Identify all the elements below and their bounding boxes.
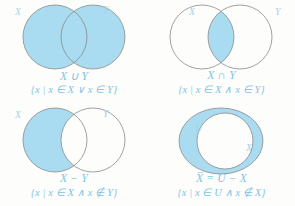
operation-label: X ∪ Y [0,69,148,83]
panel-complement: U X X̅ = U − X {x | x ∈ U ∧ x ∉ X} [148,103,295,206]
set-builder-notation: {x | x ∈ X ∧ x ∉ Y} [0,186,148,198]
operation-label: X − Y [0,172,148,184]
panel-difference: X Y X − Y {x | x ∈ X ∧ x ∉ Y} [0,103,148,206]
set-builder-notation: {x | x ∈ U ∧ x ∉ X} [148,186,295,198]
panel-intersection: X Y X ∩ Y {x | x ∈ X ∧ x ∈ Y} [148,0,295,103]
operation-label: X̅ = U − X [148,172,295,184]
set-builder-notation: {x | x ∈ X ∨ x ∈ Y} [0,83,148,95]
set-builder-notation: {x | x ∈ X ∧ x ∈ Y} [148,83,295,95]
venn-diagram-figure: X Y X ∪ Y {x | x ∈ X ∨ x ∈ Y} X Y X ∩ Y … [0,0,295,206]
panel-union: X Y X ∪ Y {x | x ∈ X ∨ x ∈ Y} [0,0,148,103]
operation-label: X ∩ Y [148,69,295,81]
